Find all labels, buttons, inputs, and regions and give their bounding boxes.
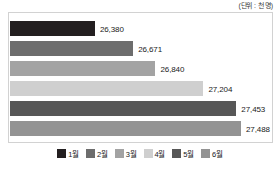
legend-label: 6월 — [212, 148, 223, 159]
legend-swatch-icon — [172, 149, 181, 158]
bar-row: 26,380 — [10, 21, 273, 36]
legend-label: 2월 — [97, 148, 108, 159]
legend-item-4월[interactable]: 4월 — [144, 148, 166, 159]
bar-2 — [10, 41, 133, 56]
legend-item-3월[interactable]: 3월 — [115, 148, 137, 159]
legend-label: 3월 — [126, 148, 137, 159]
bar-value-label: 26,840 — [160, 64, 184, 73]
bar-value-label: 27,453 — [241, 104, 265, 113]
plot-frame: 26,38026,67126,84027,20427,45327,488 — [8, 12, 273, 143]
unit-note: (단위 : 천 명) — [239, 1, 273, 11]
bar-4 — [10, 81, 203, 96]
bar-value-label: 27,488 — [246, 124, 270, 133]
bar-3 — [10, 61, 155, 76]
chart-legend: 1월2월3월4월5월6월 — [0, 148, 280, 159]
bar-value-label: 26,380 — [100, 24, 124, 33]
legend-label: 5월 — [183, 148, 194, 159]
legend-swatch-icon — [201, 149, 210, 158]
legend-label: 1월 — [68, 148, 79, 159]
bar-5 — [10, 101, 236, 116]
bar-row: 26,840 — [10, 61, 273, 76]
legend-label: 4월 — [155, 148, 166, 159]
bar-row: 27,453 — [10, 101, 273, 116]
legend-swatch-icon — [144, 149, 153, 158]
plot-area: 26,38026,67126,84027,20427,45327,488 — [9, 13, 272, 142]
legend-swatch-icon — [115, 149, 124, 158]
legend-item-2월[interactable]: 2월 — [86, 148, 108, 159]
legend-swatch-icon — [57, 149, 66, 158]
bar-6 — [10, 121, 241, 136]
legend-swatch-icon — [86, 149, 95, 158]
bar-row: 27,204 — [10, 81, 273, 96]
bar-row: 27,488 — [10, 121, 273, 136]
bar-row: 26,671 — [10, 41, 273, 56]
legend-item-5월[interactable]: 5월 — [172, 148, 194, 159]
bar-1 — [10, 21, 95, 36]
bar-value-label: 27,204 — [208, 84, 232, 93]
legend-item-1월[interactable]: 1월 — [57, 148, 79, 159]
bar-value-label: 26,671 — [138, 44, 162, 53]
bar-chart-figure: (단위 : 천 명) 26,38026,67126,84027,20427,45… — [0, 0, 280, 171]
legend-item-6월[interactable]: 6월 — [201, 148, 223, 159]
